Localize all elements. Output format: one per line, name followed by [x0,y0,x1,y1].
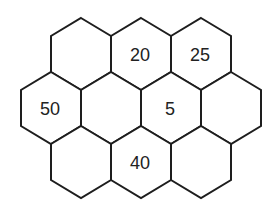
hexagon-label-r2c1: 40 [130,153,150,173]
hexagon-label-r0c2: 25 [190,45,210,65]
hexagon-label-r1c2: 5 [165,99,175,119]
hexagon-label-r0c1: 20 [130,45,150,65]
hexagon-diagram: 202550540 [0,0,276,210]
hexagon-grid-canvas: 202550540 [0,0,276,210]
hexagon-label-r1c0: 50 [40,99,60,119]
